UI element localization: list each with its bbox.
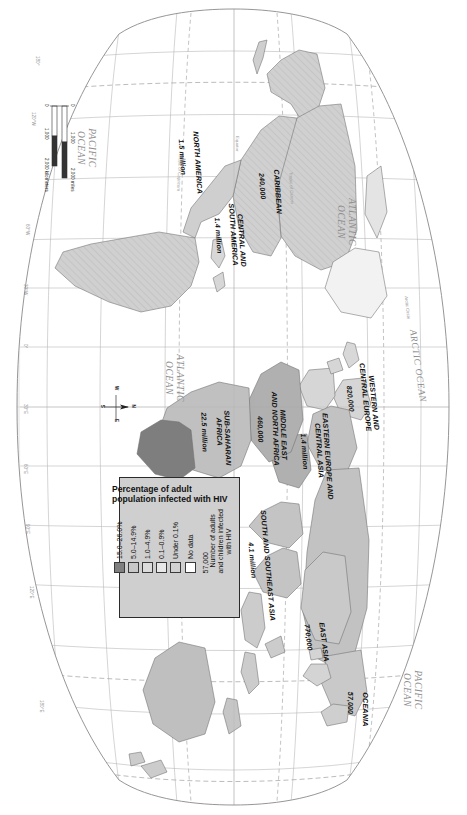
longitude-label: 30°W <box>22 284 27 295</box>
longitude-label: 60°W <box>24 224 29 235</box>
region-name: EASTERN EUROPE AND CENTRAL ASIA <box>314 413 336 500</box>
compass-label-s: S <box>100 405 105 408</box>
compass-rose: N S E W <box>101 392 131 422</box>
scale-km-tick-2000: 2,000 kilometers <box>44 158 49 192</box>
region-name: EAST ASIA <box>318 622 332 662</box>
region-name: NORTH AMERICA <box>191 131 204 194</box>
legend-class-label: No data <box>187 511 194 559</box>
legend-swatch <box>170 562 181 573</box>
region-value: 57,000 <box>346 673 354 733</box>
ocean-label: ATLANTIC OCEAN <box>336 179 357 265</box>
legend-class-under-01[interactable]: Under 0.1% <box>169 511 183 573</box>
compass-label-w: W <box>115 386 120 390</box>
region-value: 1.4 million <box>297 396 312 506</box>
legend-inner: Percentage of adult population infected … <box>105 479 240 632</box>
legend-swatch <box>128 562 139 573</box>
region-value: 770,000 <box>300 602 316 672</box>
scale-bar: 0 1,000 2,000 miles 0 1,000 2,000 kilome… <box>39 104 75 216</box>
region-label-sub-saharan-africa: SUB-SAHARAN AFRICA 22.5 million <box>183 391 240 473</box>
legend-swatch <box>142 562 153 573</box>
map-stage: ARCTIC OCEAN ATLANTIC OCEAN ATLANTIC OCE… <box>0 0 467 815</box>
legend-title: Percentage of adult population infected … <box>112 485 233 505</box>
region-name: CENTRAL AND SOUTH AMERICA <box>227 203 248 267</box>
legend-class-label: 5.0–14.9% <box>130 511 137 559</box>
region-label-oceania: OCEANIA 57,000 <box>331 673 377 733</box>
legend-class-no-data[interactable]: No data <box>183 511 197 573</box>
latitude-label-equator: Equator <box>234 136 239 151</box>
region-value: 460,000 <box>255 381 266 477</box>
scale-miles-tick-0: 0 <box>70 104 75 107</box>
legend-count-note: 57,000 Number of adults and children inf… <box>202 509 233 574</box>
region-value: 1.5 million <box>175 111 189 203</box>
ocean-label: PACIFIC OCEAN <box>76 109 97 187</box>
legend-class-5-14[interactable]: 5.0–14.9% <box>126 511 140 573</box>
region-label-middle-east-and-north-africa: MIDDLE EAST AND NORTH AFRICA 460,000 <box>239 380 296 478</box>
compass-label-e: E <box>115 419 120 422</box>
longitude-label: 120°E <box>28 586 33 599</box>
legend-class-label: 1.0–4.9% <box>144 511 151 559</box>
region-name: SUB-SAHARAN AFRICA <box>215 410 233 465</box>
legend-swatch-row: 15.0–26.0% 5.0–14.9% 1.0–4.9% 0.1–0.9% <box>112 509 233 574</box>
ocean-label: PACIFIC OCEAN <box>402 651 423 729</box>
region-value: 1.4 million <box>211 192 225 278</box>
region-value: 22.5 million <box>199 392 209 472</box>
region-name: OCEANIA <box>361 692 370 726</box>
scale-miles-tick-2000: 2,000 miles <box>70 168 75 192</box>
region-name: SOUTH AND SOUTHEAST ASIA <box>259 510 278 622</box>
longitude-label: 90°E <box>24 524 29 534</box>
longitude-label: 120°W <box>30 112 35 126</box>
region-label-central-and-south-america: CENTRAL AND SOUTH AMERICA 1.4 million <box>196 190 256 280</box>
longitude-label: 180° <box>34 56 39 66</box>
legend-class-1-4[interactable]: 1.0–4.9% <box>140 511 154 573</box>
figure-page: ARCTIC OCEAN ATLANTIC OCEAN ATLANTIC OCE… <box>0 0 467 815</box>
ocean-label: ATLANTIC OCEAN <box>164 335 185 421</box>
region-label-east-asia: EAST ASIA 770,000 <box>285 599 340 674</box>
region-name: MIDDLE EAST AND NORTH AFRICA <box>270 391 289 466</box>
scale-miles-tick-1000: 1,000 <box>70 132 75 144</box>
legend-swatch <box>156 562 167 573</box>
region-label-north-america: NORTH AMERICA 1.5 million <box>159 109 212 204</box>
region-name: WESTERN AND CENTRAL EUROPE <box>358 363 382 432</box>
compass-label-n: N <box>131 405 136 408</box>
legend-class-15-26[interactable]: 15.0–26.0% <box>112 511 126 573</box>
legend-swatch <box>185 562 196 573</box>
longitude-label: 0° <box>22 344 27 348</box>
region-value: 240,000 <box>256 151 268 221</box>
legend-count-text: Number of adults and children infected w… <box>209 509 233 574</box>
legend-class-label: 0.1–0.9% <box>158 511 165 559</box>
legend-swatch <box>114 562 125 573</box>
scale-km-tick-0: 0 <box>44 104 49 107</box>
longitude-label: 60°E <box>22 464 27 474</box>
longitude-label: 30°E <box>22 404 27 414</box>
compass-icon <box>101 392 131 422</box>
scale-km-tick-1000: 1,000 <box>44 128 49 140</box>
region-value: 820,000 <box>342 356 358 442</box>
map-legend: Percentage of adult population infected … <box>119 477 240 618</box>
region-name: CARIBBEAN <box>272 169 284 214</box>
legend-class-01-09[interactable]: 0.1–0.9% <box>155 511 169 573</box>
legend-class-label: 15.0–26.0% <box>116 511 123 559</box>
legend-class-label: Under 0.1% <box>172 511 179 559</box>
longitude-label: 180°E <box>38 700 43 713</box>
